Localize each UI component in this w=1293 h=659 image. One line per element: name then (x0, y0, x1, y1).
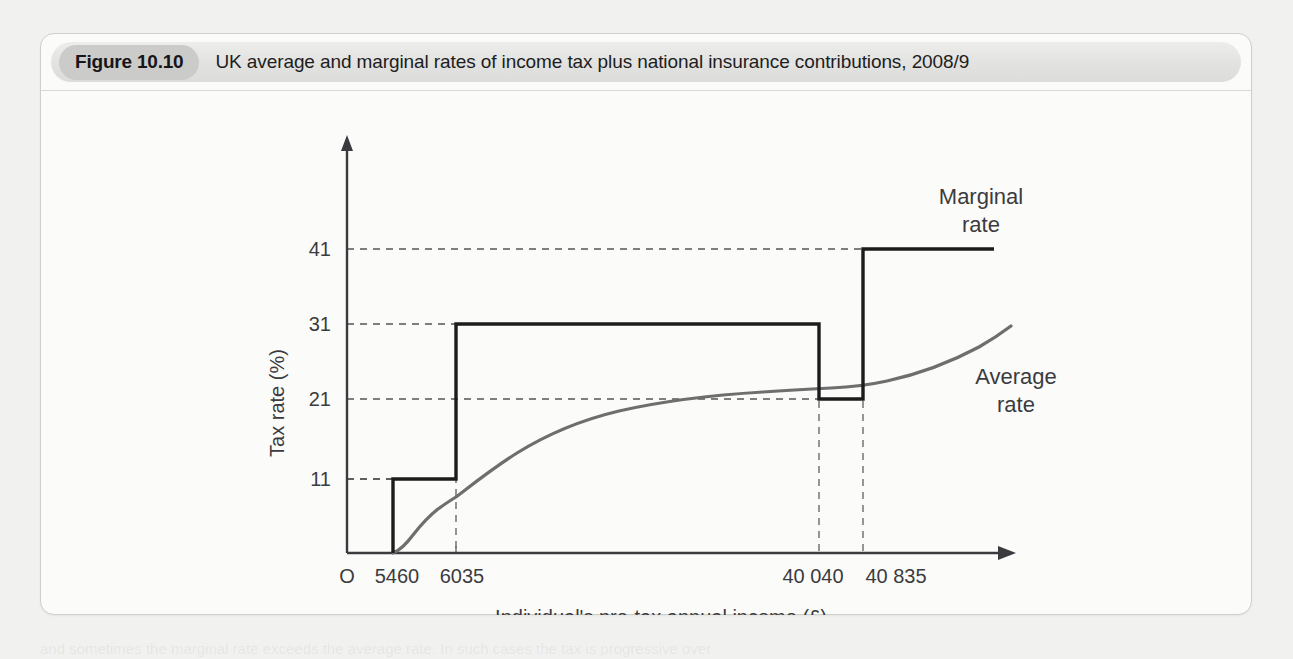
marginal-rate-step-line (393, 249, 994, 553)
background-bottom-line: and sometimes the marginal rate exceeds … (40, 640, 711, 657)
average-rate-label-line2: rate (997, 392, 1035, 417)
marginal-rate-label-line1: Marginal (939, 184, 1023, 209)
y-tick-label-11: 11 (310, 468, 331, 490)
x-tick-label-40835: 40 835 (865, 565, 926, 587)
origin-label: O (339, 565, 355, 587)
y-tick-label-31: 31 (309, 313, 331, 335)
figure-caption: UK average and marginal rates of income … (215, 51, 969, 73)
average-rate-curve (393, 326, 1011, 553)
gridlines-vertical (456, 401, 863, 553)
x-axis-title: Individual's pre-tax annual income (£) (495, 606, 827, 615)
chart-plot-area: 11 21 31 41 Tax rate (%) O 5460 6035 40 … (41, 91, 1251, 615)
x-tick-label-40040: 40 040 (782, 565, 843, 587)
figure-header: Figure 10.10 UK average and marginal rat… (41, 34, 1251, 91)
figure-card: Figure 10.10 UK average and marginal rat… (40, 33, 1252, 615)
y-axis-title: Tax rate (%) (266, 349, 288, 457)
x-tick-label-6035: 6035 (440, 565, 485, 587)
marginal-rate-label-line2: rate (962, 212, 1000, 237)
page-root: Types of tax also be regressive if the p… (0, 0, 1293, 659)
gridlines-horizontal (347, 249, 863, 479)
x-tick-label-5460: 5460 (375, 565, 420, 587)
figure-number-badge: Figure 10.10 (59, 45, 199, 80)
y-tick-label-41: 41 (309, 238, 331, 260)
y-tick-label-21: 21 (309, 388, 331, 410)
x-axis (347, 546, 1016, 560)
tax-rate-chart: 11 21 31 41 Tax rate (%) O 5460 6035 40 … (41, 91, 1253, 615)
average-rate-label-line1: Average (975, 364, 1057, 389)
y-axis (341, 135, 353, 553)
